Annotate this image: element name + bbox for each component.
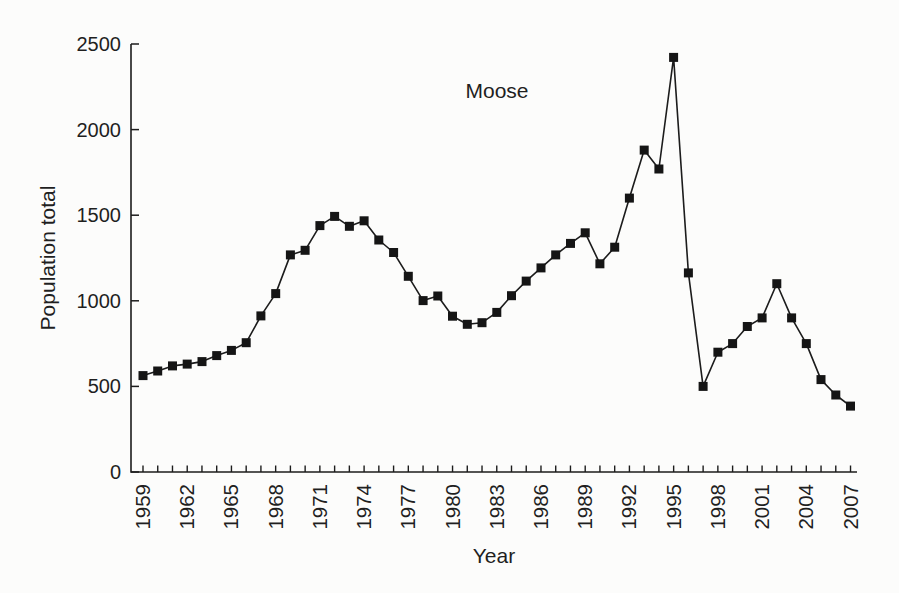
data-point-marker <box>463 320 472 329</box>
data-point-marker <box>537 263 546 272</box>
y-tick-label: 0 <box>110 461 121 483</box>
y-axis-title: Population total <box>36 186 60 331</box>
data-point-marker <box>374 236 383 245</box>
data-point-marker <box>345 222 354 231</box>
data-point-marker <box>227 346 236 355</box>
x-tick-label: 1998 <box>706 484 729 530</box>
y-tick-label: 1500 <box>77 204 122 226</box>
data-point-marker <box>566 239 575 248</box>
data-point-marker <box>551 250 560 259</box>
data-point-marker <box>507 291 516 300</box>
x-tick-label: 2004 <box>794 484 817 530</box>
data-point-marker <box>168 361 177 370</box>
data-point-marker <box>212 351 221 360</box>
axes-spines <box>131 44 857 472</box>
data-point-marker <box>669 53 678 62</box>
x-tick-label: 1992 <box>617 484 640 530</box>
data-point-marker <box>301 246 310 255</box>
data-point-marker <box>831 391 840 400</box>
data-point-marker <box>433 292 442 301</box>
x-tick-label: 1983 <box>485 484 508 530</box>
x-tick-label: 1965 <box>219 484 242 530</box>
data-point-marker <box>198 357 207 366</box>
data-point-marker <box>183 360 192 369</box>
data-point-marker <box>330 212 339 221</box>
x-tick-label: 1995 <box>662 484 685 530</box>
moose-series-markers <box>139 53 856 411</box>
data-point-marker <box>595 259 604 268</box>
data-point-marker <box>153 367 162 376</box>
x-tick-label: 1986 <box>529 484 552 530</box>
data-point-marker <box>271 289 280 298</box>
data-point-marker <box>492 308 501 317</box>
data-point-marker <box>625 194 634 203</box>
data-point-marker <box>846 402 855 411</box>
data-point-marker <box>242 338 251 347</box>
y-tick-label: 2500 <box>77 33 122 55</box>
data-point-marker <box>478 318 487 327</box>
x-tick-label: 1968 <box>264 484 287 530</box>
data-point-marker <box>817 375 826 384</box>
data-point-marker <box>743 322 752 331</box>
x-tick-label: 1974 <box>352 484 375 530</box>
data-point-marker <box>713 348 722 357</box>
moose-series-line <box>143 57 851 406</box>
x-tick-label: 1989 <box>573 484 596 530</box>
x-tick-label: 2007 <box>839 484 862 530</box>
data-point-marker <box>728 339 737 348</box>
population-line-chart: 0500100015002000250019591962196519681971… <box>0 0 899 593</box>
data-point-marker <box>315 221 324 230</box>
x-axis-title: Year <box>473 544 515 568</box>
y-tick-label: 500 <box>88 375 121 397</box>
x-tick-label: 1971 <box>308 484 331 530</box>
series-annotation: Moose <box>465 79 528 103</box>
data-point-marker <box>448 312 457 321</box>
data-point-marker <box>389 248 398 257</box>
y-tick-label: 2000 <box>77 119 122 141</box>
y-tick-label: 1000 <box>77 290 122 312</box>
data-point-marker <box>654 165 663 174</box>
x-tick-label: 1962 <box>175 484 198 530</box>
data-point-marker <box>640 146 649 155</box>
data-point-marker <box>758 313 767 322</box>
x-tick-label: 1959 <box>131 484 154 530</box>
data-point-marker <box>787 313 796 322</box>
data-point-marker <box>139 371 148 380</box>
data-point-marker <box>360 216 369 225</box>
data-point-marker <box>286 250 295 259</box>
data-point-marker <box>419 296 428 305</box>
data-point-marker <box>699 382 708 391</box>
data-point-marker <box>522 277 531 286</box>
data-point-marker <box>772 279 781 288</box>
data-point-marker <box>581 228 590 237</box>
data-point-marker <box>610 243 619 252</box>
x-tick-label: 1980 <box>441 484 464 530</box>
data-point-marker <box>802 339 811 348</box>
moose-population-figure: 0500100015002000250019591962196519681971… <box>0 0 899 593</box>
data-point-marker <box>256 311 265 320</box>
x-tick-label: 2001 <box>750 484 773 530</box>
data-point-marker <box>404 272 413 281</box>
data-point-marker <box>684 268 693 277</box>
x-tick-label: 1977 <box>396 484 419 530</box>
